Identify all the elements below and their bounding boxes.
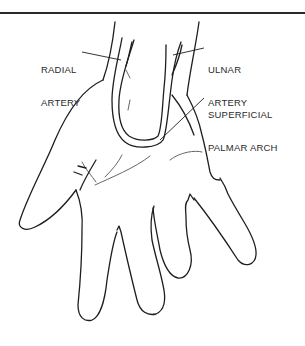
radial-artery-label: RADIAL ARTERY <box>41 42 80 130</box>
artery-outer-loop <box>112 38 181 147</box>
ulnar-artery-label-line1: ULNAR <box>208 64 247 75</box>
ulnar-artery-branch <box>172 45 182 75</box>
ring-finger <box>153 194 194 278</box>
superficial-palmar-arch-label-line2: PALMAR ARCH <box>208 142 278 153</box>
superficial-palmar-arch-label-line1: SUPERFICIAL <box>208 109 278 120</box>
artery-dash-1 <box>128 100 130 110</box>
radial-artery-label-line1: RADIAL <box>41 64 80 75</box>
artery-inner-loop <box>119 40 166 140</box>
wrist-left-line <box>103 22 115 80</box>
radial-artery-branch <box>126 42 132 66</box>
radial-artery-leader <box>82 52 121 60</box>
hand-artery-diagram: RADIAL ARTERY ULNAR ARTERY SUPERFICIAL P… <box>0 0 305 346</box>
artery-dash-2 <box>126 70 130 78</box>
little-finger <box>194 178 256 265</box>
wrist-right-line <box>187 22 199 95</box>
radial-artery-label-line2: ARTERY <box>41 97 80 108</box>
middle-finger <box>117 206 165 314</box>
palm-crease-3 <box>170 151 202 160</box>
superficial-palmar-arch-label: SUPERFICIAL PALMAR ARCH <box>208 87 278 175</box>
thenar-crease <box>74 160 96 190</box>
hand-left-edge <box>76 190 117 320</box>
palm-crease-1 <box>95 156 150 185</box>
